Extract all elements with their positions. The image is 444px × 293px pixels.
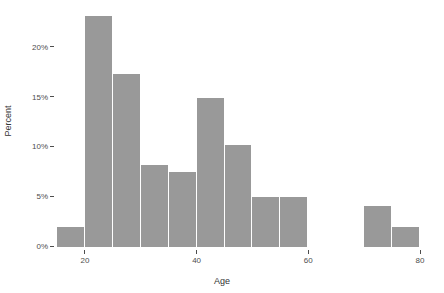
x-axis-tick-mark: [420, 250, 421, 254]
y-axis-tick-mark: [50, 46, 54, 47]
x-axis-tick: 40: [177, 247, 217, 266]
x-axis-tick-label: 40: [177, 256, 217, 266]
histogram-chart: Percent 0%5%10%15%20% 20406080 Age: [0, 0, 444, 293]
x-axis: 20406080 Age: [0, 247, 444, 293]
histogram-bar: [85, 16, 112, 247]
y-axis-tick-label: 10%: [32, 141, 48, 153]
histogram-bar: [197, 98, 224, 247]
histogram-bar: [141, 165, 168, 247]
x-axis-tick: 80: [400, 247, 440, 266]
y-axis-tick: 15%: [32, 92, 57, 104]
histogram-bar: [252, 197, 279, 247]
x-axis-tick: 20: [65, 247, 105, 266]
y-axis-tick: 20%: [32, 42, 57, 54]
y-axis-title: Percent: [3, 91, 13, 151]
x-axis-tick: 60: [288, 247, 328, 266]
histogram-bar: [225, 145, 252, 247]
y-axis-tick-mark: [50, 146, 54, 147]
x-axis-tick-mark: [84, 250, 85, 254]
y-axis-tick: 10%: [32, 141, 57, 153]
histogram-bar: [169, 172, 196, 247]
x-axis-tick-label: 20: [65, 256, 105, 266]
plot-area: [57, 8, 420, 247]
y-axis-tick: 5%: [36, 191, 57, 203]
y-axis-tick-label: 15%: [32, 92, 48, 104]
y-axis-tick-mark: [50, 196, 54, 197]
histogram-bar: [280, 197, 307, 247]
y-axis-tick-mark: [50, 96, 54, 97]
x-axis-tick-label: 60: [288, 256, 328, 266]
histogram-bar: [364, 206, 391, 247]
x-axis-tick-label: 80: [400, 256, 440, 266]
x-axis-tick-mark: [308, 250, 309, 254]
x-axis-title: Age: [0, 276, 444, 286]
y-axis-tick-label: 5%: [36, 191, 48, 203]
histogram-bar: [113, 74, 140, 247]
histogram-bar: [57, 227, 84, 247]
y-axis-tick-label: 20%: [32, 42, 48, 54]
histogram-bar: [392, 227, 419, 247]
x-axis-tick-mark: [196, 250, 197, 254]
